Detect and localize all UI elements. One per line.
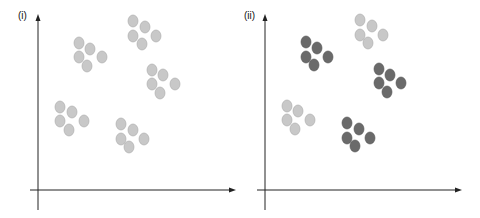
data-point bbox=[85, 43, 95, 55]
data-point bbox=[363, 37, 373, 49]
data-point bbox=[82, 60, 92, 72]
data-point bbox=[74, 51, 84, 63]
clustered-scatter-plot bbox=[240, 0, 480, 218]
data-point bbox=[55, 115, 65, 127]
data-point bbox=[354, 123, 364, 135]
data-point bbox=[55, 101, 65, 113]
data-point bbox=[374, 77, 384, 89]
cluster-light bbox=[128, 15, 161, 50]
data-point bbox=[350, 140, 360, 152]
data-point bbox=[140, 21, 150, 33]
data-point bbox=[365, 132, 375, 144]
cluster-light bbox=[55, 101, 89, 136]
cluster-light bbox=[74, 37, 107, 72]
data-point bbox=[396, 77, 406, 89]
data-point bbox=[282, 114, 292, 126]
data-point bbox=[147, 64, 157, 76]
data-point bbox=[147, 78, 157, 90]
data-point bbox=[301, 51, 311, 63]
data-point bbox=[355, 29, 365, 41]
data-point bbox=[97, 51, 107, 63]
y-axis-arrow-icon bbox=[263, 14, 268, 21]
data-point bbox=[367, 20, 377, 32]
data-point bbox=[293, 105, 303, 117]
cluster-dark bbox=[342, 117, 375, 152]
data-point bbox=[151, 30, 161, 42]
data-point bbox=[385, 69, 395, 81]
data-point bbox=[312, 42, 322, 54]
panel-ii: (ii) bbox=[240, 0, 480, 218]
data-point bbox=[116, 133, 126, 145]
data-point bbox=[137, 38, 147, 50]
cluster-light bbox=[116, 118, 149, 153]
data-point bbox=[374, 63, 384, 75]
cluster-dark bbox=[374, 63, 406, 98]
panel-i: (i) bbox=[0, 0, 240, 218]
data-point bbox=[79, 115, 89, 127]
cluster-light bbox=[355, 14, 388, 49]
data-point bbox=[139, 133, 149, 145]
x-axis-arrow-icon bbox=[455, 188, 462, 193]
data-point bbox=[382, 86, 392, 98]
data-point bbox=[342, 117, 352, 129]
y-axis-arrow-icon bbox=[36, 14, 41, 21]
data-point bbox=[309, 59, 319, 71]
data-point bbox=[124, 141, 134, 153]
cluster-dark bbox=[301, 36, 333, 71]
data-point bbox=[158, 69, 168, 81]
data-point bbox=[342, 132, 352, 144]
data-point bbox=[305, 114, 315, 126]
x-axis-arrow-icon bbox=[229, 188, 236, 193]
data-point bbox=[128, 124, 138, 136]
data-point bbox=[116, 118, 126, 130]
data-point bbox=[128, 15, 138, 27]
data-point bbox=[378, 29, 388, 41]
data-point bbox=[290, 123, 300, 135]
cluster-light bbox=[147, 64, 180, 99]
data-point bbox=[355, 14, 365, 26]
data-point bbox=[282, 100, 292, 112]
data-point bbox=[67, 106, 77, 118]
data-point bbox=[170, 78, 180, 90]
cluster-light bbox=[282, 100, 315, 135]
data-point bbox=[128, 30, 138, 42]
data-point bbox=[301, 36, 311, 48]
data-point bbox=[155, 87, 165, 99]
scatter-plot bbox=[0, 0, 240, 218]
data-point bbox=[74, 37, 84, 49]
data-point bbox=[323, 51, 333, 63]
data-point bbox=[64, 124, 74, 136]
